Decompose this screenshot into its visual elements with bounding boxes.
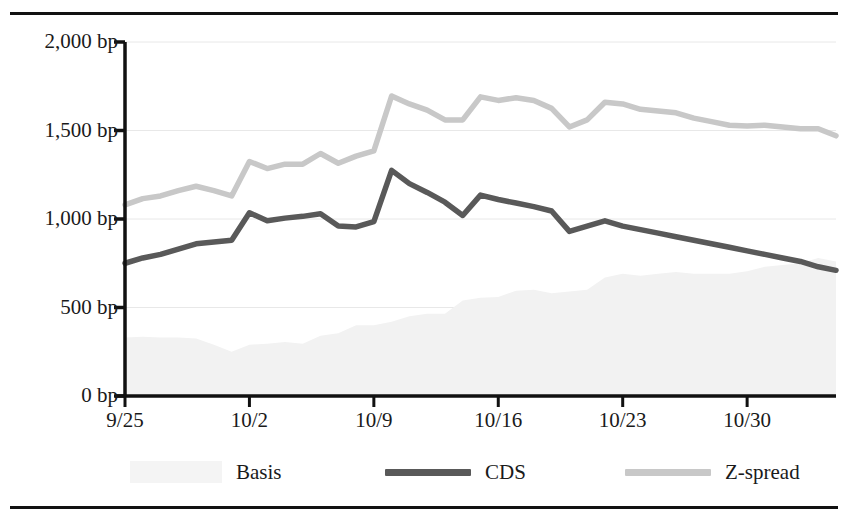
y-axis-tick-label: 500 bp [60,297,118,318]
legend-item-z-spread[interactable]: Z-spread [625,455,800,489]
legend-item-basis[interactable]: Basis [130,455,282,489]
line-chart-svg [0,0,845,470]
legend-swatch-icon [130,461,222,483]
legend-label: Z-spread [725,460,800,484]
legend-label: CDS [485,460,526,484]
y-axis-tick-label: 0 bp [81,385,118,406]
chart-figure: 0 bp500 bp1,000 bp1,500 bp2,000 bp 9/251… [0,0,845,519]
line-series-z-spread [125,96,836,205]
legend-swatch-icon [385,469,471,476]
y-axis-tick-label: 1,500 bp [45,120,119,141]
x-axis-tick-label: 10/30 [723,408,771,432]
x-axis-tick-label: 10/16 [474,408,522,432]
area-series-basis [125,258,836,396]
legend-item-cds[interactable]: CDS [385,455,526,489]
bottom-divider-rule [10,506,838,509]
chart-legend: BasisCDSZ-spread [0,455,845,495]
legend-swatch-icon [625,469,711,476]
x-axis-tick-label: 10/23 [599,408,647,432]
plot-area: 0 bp500 bp1,000 bp1,500 bp2,000 bp 9/251… [0,0,845,470]
x-axis-tick-label: 9/25 [106,408,143,432]
x-axis-tick-label: 10/9 [355,408,392,432]
legend-label: Basis [236,460,282,484]
y-axis-tick-label: 2,000 bp [45,31,119,52]
line-series-cds [125,170,836,270]
y-axis-tick-label: 1,000 bp [45,208,119,229]
x-axis-tick-label: 10/2 [231,408,268,432]
y-axis-tick-labels: 0 bp500 bp1,000 bp1,500 bp2,000 bp [0,0,118,470]
x-axis-tick-labels: 9/2510/210/910/1610/2310/30 [0,408,845,442]
